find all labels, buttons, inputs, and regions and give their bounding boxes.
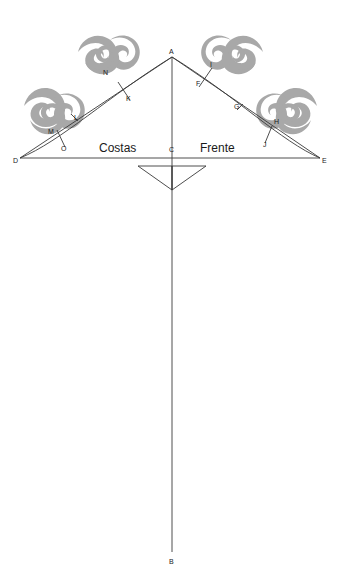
diagram-canvas: A B C D E F G H I J K L M N O Costas Fre… <box>0 0 341 588</box>
point-label-N: N <box>103 69 108 76</box>
construction-lines <box>20 57 320 552</box>
point-label-C: C <box>169 146 174 153</box>
ornament-decoration-right <box>256 88 317 134</box>
point-label-L: L <box>74 114 78 121</box>
point-label-E: E <box>322 157 327 164</box>
ornament-decoration-top-right <box>201 35 263 74</box>
triangle-left-rest <box>138 166 172 190</box>
triangle-right-rest <box>172 166 206 190</box>
point-label-D: D <box>13 157 18 164</box>
point-label-B: B <box>169 558 174 565</box>
point-label-O: O <box>61 145 67 152</box>
point-label-H: H <box>274 118 279 125</box>
ornament-decoration-top-left <box>78 35 140 74</box>
ornament-decoration-left <box>24 88 85 134</box>
point-label-M: M <box>48 128 54 135</box>
point-label-K: K <box>126 95 131 102</box>
point-label-A: A <box>169 48 174 55</box>
tick-FI <box>199 68 212 87</box>
bow-diagram: A B C D E F G H I J K L M N O Costas Fre… <box>0 0 341 588</box>
point-label-G: G <box>234 103 239 110</box>
point-label-I: I <box>210 61 212 68</box>
label-costas: Costas <box>99 141 136 155</box>
point-label-J: J <box>263 141 267 148</box>
label-frente: Frente <box>200 141 235 155</box>
point-label-F: F <box>196 80 200 87</box>
